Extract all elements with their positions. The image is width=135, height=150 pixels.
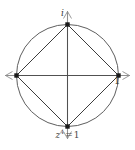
vertex-marker-negative-i (65, 124, 69, 128)
caption-exponent: 4 (60, 128, 64, 135)
vertex-marker-i (65, 22, 69, 26)
figure-caption: z4=1 (0, 131, 135, 141)
axis-label-real-unit: 1 (114, 76, 120, 86)
axis-label-imaginary-unit: i (61, 9, 64, 18)
complex-plane-figure: i 1 z4=1 (0, 0, 135, 150)
square-diagonals (17, 25, 119, 127)
vertex-marker-negative-one (14, 73, 18, 77)
caption-equals: = (65, 130, 73, 140)
caption-value: 1 (74, 130, 80, 140)
